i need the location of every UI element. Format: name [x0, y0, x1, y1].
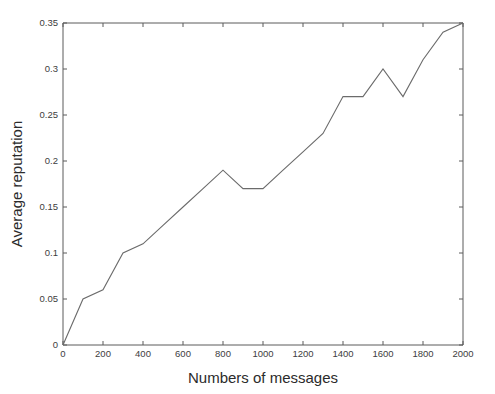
y-tick-label: 0.3	[45, 63, 58, 74]
x-axis-title: Numbers of messages	[188, 369, 338, 386]
data-line-average-reputation	[63, 23, 463, 345]
y-tick-label: 0.05	[40, 293, 59, 304]
x-tick-label: 1800	[412, 348, 433, 359]
x-tick-label: 200	[95, 348, 111, 359]
x-tick-label: 1200	[292, 348, 313, 359]
axis-frame	[63, 23, 463, 345]
figure-container: 020040060080010001200140016001800200000.…	[0, 0, 495, 394]
x-tick-label: 2000	[452, 348, 473, 359]
x-tick-label: 800	[215, 348, 231, 359]
y-tick-label: 0.2	[45, 155, 58, 166]
y-tick-label: 0.15	[40, 201, 59, 212]
data-series	[63, 23, 463, 345]
x-tick-label: 0	[60, 348, 65, 359]
x-tick-label: 1000	[252, 348, 273, 359]
y-tick-label: 0	[53, 339, 58, 350]
tick-marks	[63, 23, 463, 345]
y-tick-label: 0.35	[40, 17, 59, 28]
x-tick-label: 600	[175, 348, 191, 359]
y-tick-label: 0.25	[40, 109, 59, 120]
x-tick-label: 1400	[332, 348, 353, 359]
y-axis-title: Average reputation	[8, 121, 25, 247]
x-tick-label: 400	[135, 348, 151, 359]
y-tick-label: 0.1	[45, 247, 58, 258]
x-tick-label: 1600	[372, 348, 393, 359]
axes	[63, 23, 463, 345]
line-chart: 020040060080010001200140016001800200000.…	[0, 0, 495, 394]
